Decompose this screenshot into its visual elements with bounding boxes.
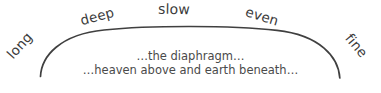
arc-label-slow: slow	[158, 2, 190, 17]
caption-line-1: …the diaphragm…	[0, 49, 381, 63]
arc-svg	[0, 0, 381, 93]
caption-block: …the diaphragm… …heaven above and earth …	[0, 49, 381, 77]
breath-qualities-diagram: long deep slow even fine …the diaphragm……	[0, 0, 381, 93]
caption-line-2: …heaven above and earth beneath…	[0, 63, 381, 77]
